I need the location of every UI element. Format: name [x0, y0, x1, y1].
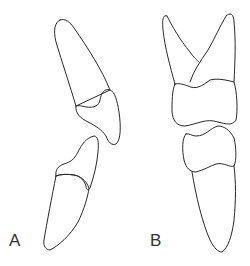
panel-b-upper-tooth	[163, 14, 237, 126]
panel-b-lower-tooth	[183, 126, 236, 252]
panel-a-upper-tooth	[55, 19, 121, 144]
panel-a-lower-tooth	[44, 136, 99, 250]
teeth-diagram	[0, 0, 250, 266]
panel-label-a: A	[9, 232, 20, 249]
panel-label-b: B	[150, 232, 161, 249]
